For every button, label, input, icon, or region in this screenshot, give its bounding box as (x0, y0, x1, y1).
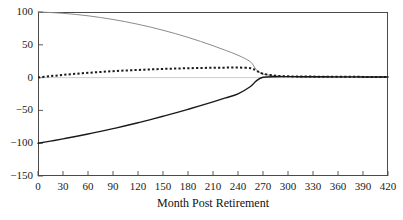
chart-figure: 100500−50−100−150 0306090120150180210240… (0, 0, 403, 220)
x-axis-labels: 0306090120150180210240270300330360390420 (0, 0, 403, 220)
x-tick-label: 420 (368, 181, 403, 192)
x-axis-title: Month Post Retirement (38, 197, 388, 210)
